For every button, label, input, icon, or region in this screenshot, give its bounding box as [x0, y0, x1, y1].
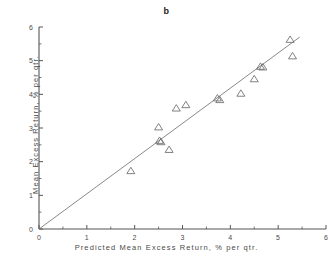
- data-point-marker: [127, 167, 135, 173]
- x-axis-tick-label: 5: [276, 234, 280, 241]
- data-point-marker: [216, 96, 224, 102]
- reference-line: [39, 37, 300, 229]
- data-point-marker: [172, 105, 180, 111]
- data-point-marker: [289, 52, 297, 58]
- x-axis-tick-label: 6: [324, 234, 328, 241]
- x-axis-title: Predicted Mean Excess Return, % per qtr.: [0, 243, 333, 252]
- y-axis-title: Mean Excess Return, % per qtr.: [31, 30, 40, 220]
- y-axis-tick-label: 0: [29, 226, 33, 233]
- x-axis-tick-label: 1: [85, 234, 89, 241]
- x-axis-tick-label: 0: [37, 234, 41, 241]
- data-point-marker: [155, 123, 163, 129]
- x-axis-tick-label: 2: [133, 234, 137, 241]
- data-point-marker: [250, 75, 258, 81]
- scatter-plot: 01234560123456: [0, 0, 333, 261]
- x-axis-tick-label: 3: [180, 234, 184, 241]
- data-point-marker: [237, 90, 245, 96]
- data-point-marker: [182, 101, 190, 107]
- figure-panel: b 01234560123456 Predicted Mean Excess R…: [0, 0, 333, 261]
- x-axis-tick-label: 4: [228, 234, 232, 241]
- data-point-marker: [286, 36, 294, 42]
- data-point-marker: [165, 146, 173, 152]
